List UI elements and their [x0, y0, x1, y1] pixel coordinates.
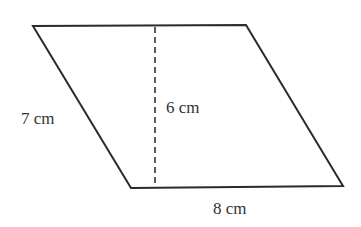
- height-label: 6 cm: [166, 98, 200, 117]
- side-length-label: 7 cm: [21, 109, 55, 128]
- parallelogram-diagram: 7 cm 6 cm 8 cm: [0, 0, 361, 227]
- base-length-label: 8 cm: [213, 199, 247, 218]
